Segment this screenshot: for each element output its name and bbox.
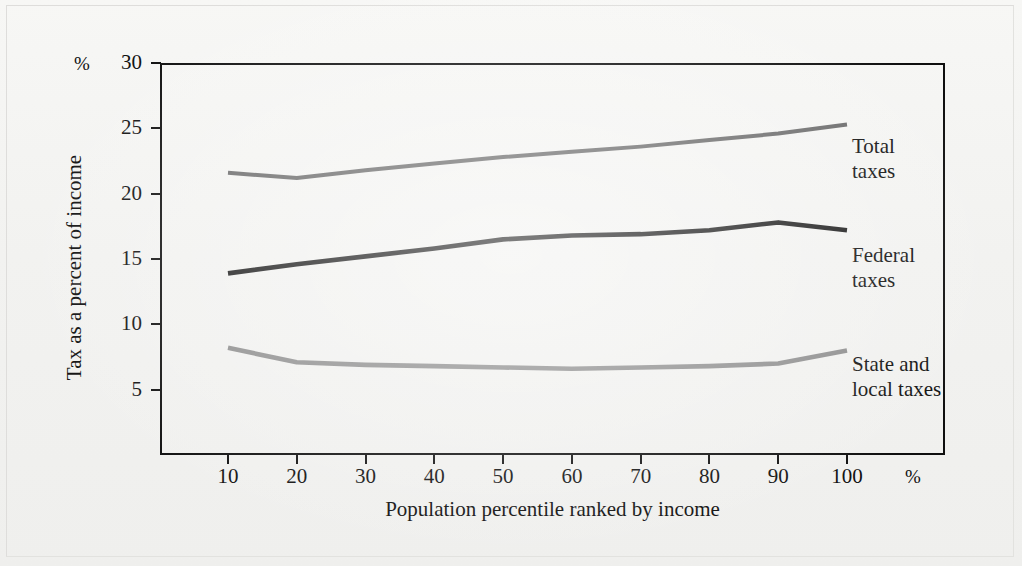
series-label-federal-taxes: Federal taxes [852,243,915,293]
series-line-total-taxes [228,124,847,178]
chart-figure: % % Tax as a percent of income Populatio… [0,0,1022,566]
series-label-federal-line1: Federal [852,243,915,268]
series-line-federal-taxes [228,222,847,273]
series-label-total-line1: Total [852,134,895,159]
series-label-state-line1: State and [852,352,941,377]
series-label-state-line2: local taxes [852,377,941,402]
series-label-total-line2: taxes [852,159,895,184]
series-label-federal-line2: taxes [852,268,915,293]
series-label-state-local-taxes: State and local taxes [852,352,941,402]
series-line-state-and-local-taxes [228,348,847,369]
series-label-total-taxes: Total taxes [852,134,895,184]
